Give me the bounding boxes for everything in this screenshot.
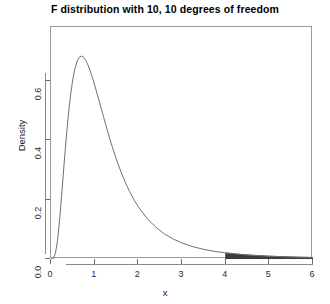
density-curve (51, 56, 313, 259)
y-tick-mark (45, 139, 50, 140)
plot-area (50, 26, 312, 258)
x-tick-mark (225, 259, 226, 264)
x-tick-label: 1 (84, 269, 104, 279)
x-axis-label: x (0, 287, 330, 298)
x-tick-mark (50, 259, 51, 264)
x-tick-mark (94, 259, 95, 264)
x-tick-mark (312, 259, 313, 264)
x-tick-label: 6 (302, 269, 322, 279)
x-tick-label: 0 (40, 269, 60, 279)
x-tick-mark (268, 259, 269, 264)
y-tick-label: 0.6 (33, 79, 43, 109)
x-tick-label: 3 (171, 269, 191, 279)
f-distribution-plot: F distribution with 10, 10 degrees of fr… (0, 0, 330, 304)
y-tick-mark (45, 80, 50, 81)
page-title: F distribution with 10, 10 degrees of fr… (0, 3, 330, 15)
y-tick-mark (45, 199, 50, 200)
y-axis-label: Density (16, 120, 27, 152)
y-tick-label: 0.4 (33, 138, 43, 168)
x-tick-mark (181, 259, 182, 264)
y-axis-line (45, 73, 46, 254)
x-tick-label: 5 (258, 269, 278, 279)
x-tick-label: 4 (215, 269, 235, 279)
density-curve-svg (51, 27, 313, 259)
y-tick-label: 0.2 (33, 198, 43, 228)
x-tick-mark (137, 259, 138, 264)
x-tick-label: 2 (127, 269, 147, 279)
x-axis-line (66, 264, 313, 265)
